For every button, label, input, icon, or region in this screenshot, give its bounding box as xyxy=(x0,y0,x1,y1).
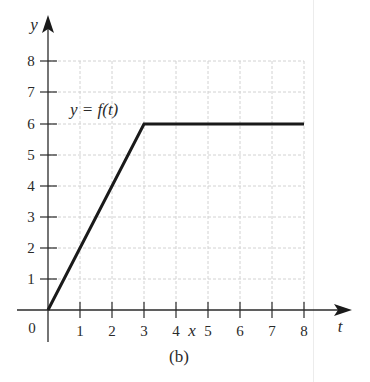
y-tick-label: 2 xyxy=(27,240,35,256)
x-tick-label: 7 xyxy=(268,323,276,339)
stray-x-annotation: x xyxy=(187,321,196,340)
y-tick-label: 5 xyxy=(27,147,35,163)
x-tick-label: 6 xyxy=(236,323,244,339)
y-tick-label: 7 xyxy=(27,84,35,100)
chart: 1 2 3 4 5 6 7 8 1 2 3 4 5 6 7 8 0 x y t … xyxy=(0,0,370,382)
x-axis-label: t xyxy=(338,317,344,336)
origin-label: 0 xyxy=(28,320,36,336)
axes xyxy=(17,26,340,342)
y-axis-label: y xyxy=(28,15,38,34)
figure-caption: (b) xyxy=(169,347,189,366)
y-tick-label: 6 xyxy=(27,116,35,132)
grid xyxy=(48,61,304,310)
y-tick-label: 4 xyxy=(27,178,35,194)
x-tick-label: 3 xyxy=(140,323,148,339)
function-label: y = f(t) xyxy=(68,100,119,119)
x-tick-label: 8 xyxy=(300,323,308,339)
y-tick-label: 3 xyxy=(27,209,35,225)
x-tick-label: 4 xyxy=(172,323,180,339)
y-tick-label: 8 xyxy=(27,53,35,69)
x-tick-label: 2 xyxy=(108,323,116,339)
y-tick-label: 1 xyxy=(27,271,35,287)
x-tick-label: 5 xyxy=(204,323,212,339)
x-tick-label: 1 xyxy=(76,323,84,339)
